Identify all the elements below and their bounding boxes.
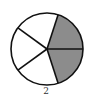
figure-label: 2 [0, 86, 92, 96]
